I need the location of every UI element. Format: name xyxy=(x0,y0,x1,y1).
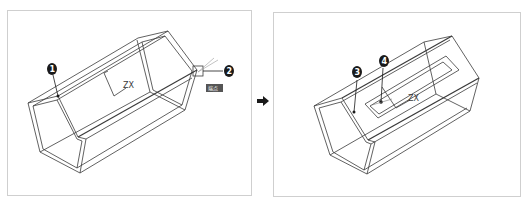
ucs-icon-label: ZX xyxy=(408,94,419,103)
right-wireframe-drawing: ZX 3 4 xyxy=(0,0,527,203)
svg-text:3: 3 xyxy=(355,68,361,77)
svg-text:4: 4 xyxy=(382,57,388,66)
